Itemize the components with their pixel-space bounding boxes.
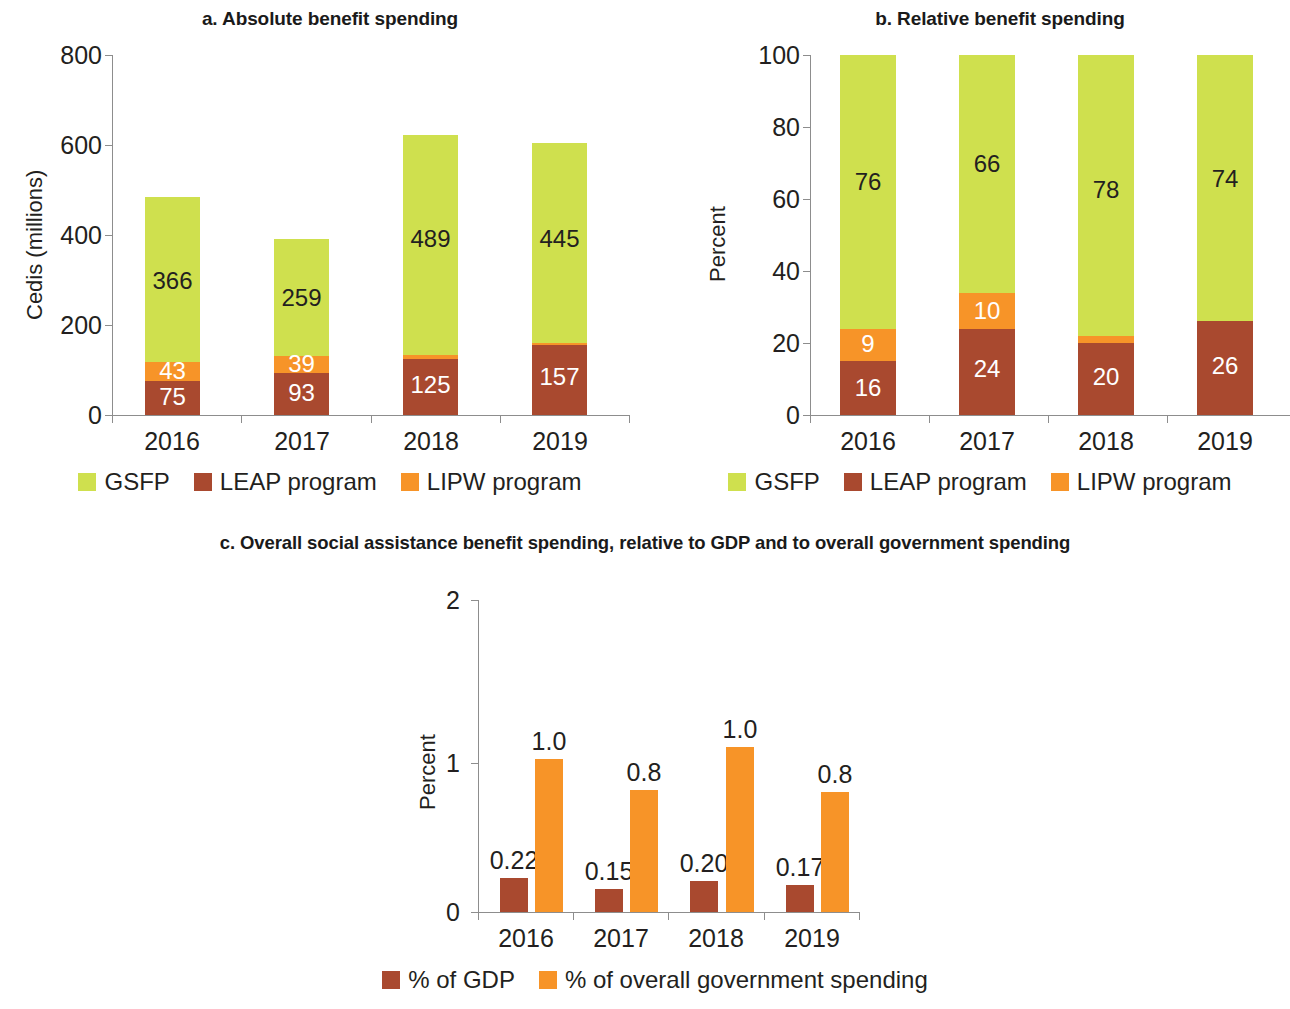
panel-c-bar-gdp-2016[interactable] (500, 878, 528, 912)
panel-a-bar-2017[interactable]: 259 39 93 (274, 239, 329, 415)
panel-b-ytick-mark-40 (803, 271, 811, 272)
legend-swatch-gov-icon (539, 971, 557, 989)
panel-c-xtick-2017: 2017 (576, 924, 666, 953)
panel-c-value-gov-2016: 1.0 (509, 729, 589, 754)
panel-c-xtick-2016: 2016 (481, 924, 571, 953)
panel-b-ytick-60: 60 (720, 187, 800, 212)
panel-b-legend-item-lipw[interactable]: LIPW program (1051, 468, 1232, 496)
panel-a-xtick-mark-2 (371, 415, 372, 423)
panel-c-bar-gov-2016[interactable] (535, 759, 563, 912)
panel-a-value-leap-2017: 93 (274, 381, 329, 405)
panel-a-xtick-mark-3 (500, 415, 501, 423)
panel-b-title: b. Relative benefit spending (720, 8, 1280, 30)
panel-c-x-axis (478, 912, 860, 913)
legend-swatch-gdp-icon (382, 971, 400, 989)
panel-b-value-gsfp-2019: 74 (1197, 167, 1253, 191)
panel-b-legend-label-leap: LEAP program (870, 468, 1027, 496)
panel-b-xtick-mark-left (810, 415, 811, 423)
panel-c-ytick-1: 1 (420, 751, 460, 776)
panel-a-seg-gsfp-2017[interactable]: 259 (274, 239, 329, 356)
panel-b-xtick-2017: 2017 (932, 427, 1042, 456)
panel-b-value-gsfp-2018: 78 (1078, 178, 1134, 202)
panel-b-value-gsfp-2017: 66 (959, 152, 1015, 176)
panel-a-legend-label-lipw: LIPW program (427, 468, 582, 496)
panel-b-ytick-100: 100 (720, 43, 800, 68)
panel-b-seg-gsfp-2019[interactable]: 74 (1197, 55, 1253, 321)
panel-c-legend-item-gdp[interactable]: % of GDP (382, 966, 515, 994)
panel-a-ytick-mark-800 (105, 55, 113, 56)
panel-b-ytick-0: 0 (720, 403, 800, 428)
panel-c-bar-gdp-2017[interactable] (595, 889, 623, 912)
panel-c: c. Overall social assistance benefit spe… (0, 500, 1290, 1009)
panel-a-legend-label-leap: LEAP program (220, 468, 377, 496)
panel-a-seg-leap-2017[interactable]: 93 (274, 373, 329, 415)
panel-a-seg-leap-2016[interactable]: 75 (145, 381, 200, 415)
panel-c-value-gov-2018: 1.0 (700, 717, 780, 742)
panel-b-xtick-2019: 2019 (1170, 427, 1280, 456)
panel-b-legend-item-leap[interactable]: LEAP program (844, 468, 1027, 496)
panel-b-bar-2017[interactable]: 66 10 24 (959, 55, 1015, 415)
panel-c-bar-gdp-2018[interactable] (690, 881, 718, 912)
panel-c-legend-item-gov[interactable]: % of overall government spending (539, 966, 928, 994)
panel-a-legend-item-gsfp[interactable]: GSFP (78, 468, 169, 496)
panel-a-value-gsfp-2016: 366 (145, 269, 200, 293)
panel-a-seg-gsfp-2018[interactable]: 489 (403, 135, 458, 355)
panel-a-value-leap-2016: 75 (145, 385, 200, 409)
panel-b-ytick-mark-20 (803, 343, 811, 344)
panel-b-seg-leap-2016[interactable]: 16 (840, 361, 896, 415)
panel-b-ytick-mark-80 (803, 127, 811, 128)
panel-a-seg-lipw-2016[interactable]: 43 (145, 362, 200, 381)
panel-c-legend-label-gdp: % of GDP (408, 966, 515, 994)
panel-b-value-leap-2018: 20 (1078, 365, 1134, 389)
panel-b-xtick-mark-3 (1167, 415, 1168, 423)
panel-a-xtick-mark-left (112, 415, 113, 423)
panel-a-ytick-800: 800 (40, 43, 102, 68)
figure-root: a. Absolute benefit spending Cedis (mill… (0, 0, 1290, 1009)
panel-b-seg-gsfp-2017[interactable]: 66 (959, 55, 1015, 293)
panel-b-seg-leap-2019[interactable]: 26 (1197, 321, 1253, 415)
panel-c-xtick-mark-left (478, 912, 479, 920)
panel-b-legend: GSFP LEAP program LIPW program (710, 468, 1250, 496)
panel-b-bar-2016[interactable]: 76 9 16 (840, 55, 896, 415)
panel-a-ytick-400: 400 (40, 223, 102, 248)
panel-a-seg-gsfp-2019[interactable]: 445 (532, 143, 587, 343)
panel-b-xtick-2018: 2018 (1051, 427, 1161, 456)
panel-a-seg-gsfp-2016[interactable]: 366 (145, 197, 200, 362)
panel-b-bar-2019[interactable]: 74 26 (1197, 55, 1253, 415)
panel-a-legend-item-lipw[interactable]: LIPW program (401, 468, 582, 496)
panel-c-bar-gdp-2019[interactable] (786, 885, 814, 912)
panel-c-legend-label-gov: % of overall government spending (565, 966, 928, 994)
panel-a-xtick-2019: 2019 (505, 427, 615, 456)
panel-b-ytick-mark-60 (803, 199, 811, 200)
legend-swatch-gsfp-icon (728, 473, 746, 491)
panel-a-bar-2019[interactable]: 445 157 (532, 143, 587, 415)
panel-c-legend: % of GDP % of overall government spendin… (365, 966, 945, 994)
panel-c-value-gov-2017: 0.8 (604, 760, 684, 785)
panel-b-ytick-20: 20 (720, 331, 800, 356)
panel-a-bar-2018[interactable]: 489 125 (403, 135, 458, 415)
panel-a-seg-leap-2019[interactable]: 157 (532, 345, 587, 415)
panel-a-ytick-mark-200 (105, 325, 113, 326)
panel-a-seg-lipw-2017[interactable]: 39 (274, 356, 329, 373)
panel-a-bar-2016[interactable]: 366 43 75 (145, 197, 200, 415)
panel-c-bar-gov-2018[interactable] (726, 747, 754, 912)
panel-b-seg-lipw-2018[interactable] (1078, 336, 1134, 343)
panel-b-seg-leap-2017[interactable]: 24 (959, 329, 1015, 415)
panel-c-bar-gov-2017[interactable] (630, 790, 658, 912)
panel-a-seg-leap-2018[interactable]: 125 (403, 359, 458, 415)
panel-b-value-lipw-2017: 10 (959, 299, 1015, 323)
panel-a-value-gsfp-2018: 489 (403, 227, 458, 251)
panel-b-seg-gsfp-2016[interactable]: 76 (840, 55, 896, 329)
panel-a-ytick-0: 0 (40, 403, 102, 428)
panel-b-seg-gsfp-2018[interactable]: 78 (1078, 55, 1134, 336)
panel-b-bar-2018[interactable]: 78 20 (1078, 55, 1134, 415)
panel-b-legend-item-gsfp[interactable]: GSFP (728, 468, 819, 496)
panel-b-seg-lipw-2017[interactable]: 10 (959, 293, 1015, 329)
panel-c-ytick-mark-2 (471, 600, 479, 601)
panel-b-seg-leap-2018[interactable]: 20 (1078, 343, 1134, 415)
panel-b-seg-lipw-2016[interactable]: 9 (840, 329, 896, 361)
panel-c-bar-gov-2019[interactable] (821, 792, 849, 912)
panel-a-value-lipw-2016: 43 (145, 359, 200, 383)
panel-b-y-axis (810, 55, 811, 416)
panel-a-legend-item-leap[interactable]: LEAP program (194, 468, 377, 496)
